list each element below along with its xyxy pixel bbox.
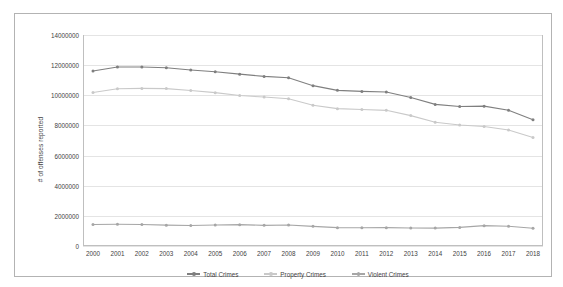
series-marker	[189, 68, 192, 71]
series-marker	[507, 225, 510, 228]
series-marker	[92, 70, 95, 73]
y-axis-tick-label: 4000000	[17, 182, 79, 189]
series-marker	[507, 129, 510, 132]
series-marker	[409, 114, 412, 117]
x-axis-tick-label: 2016	[477, 250, 491, 257]
series-marker	[140, 223, 143, 226]
series-lines	[83, 35, 543, 246]
series-marker	[263, 96, 266, 99]
series-marker	[458, 105, 461, 108]
series-marker	[165, 87, 168, 90]
series-marker	[532, 118, 535, 121]
legend-swatch-icon	[352, 273, 365, 274]
y-axis-tick-label: 6000000	[17, 152, 79, 159]
series-marker	[409, 226, 412, 229]
series-marker	[385, 226, 388, 229]
series-marker	[140, 65, 143, 68]
series-marker	[238, 94, 241, 97]
series-marker	[336, 226, 339, 229]
series-marker	[434, 121, 437, 124]
x-axis-tick-label: 2018	[526, 250, 540, 257]
y-axis-tick-label: 8000000	[17, 122, 79, 129]
series-marker	[189, 224, 192, 227]
chart-frame: # of offenses reported 02000000400000060…	[14, 13, 552, 277]
y-axis-tick-label: 0	[17, 243, 79, 250]
x-axis-tick-label: 2015	[453, 250, 467, 257]
x-axis-tick-label: 2001	[110, 250, 124, 257]
legend-label: Property Crimes	[280, 271, 326, 278]
legend-label: Violent Crimes	[368, 271, 409, 278]
x-axis-tick-labels: 2000200120022003200420052006200720082009…	[83, 250, 543, 262]
series-marker	[92, 223, 95, 226]
series-line	[93, 67, 533, 120]
series-marker	[360, 90, 363, 93]
legend-marker-icon	[269, 272, 273, 276]
series-marker	[165, 224, 168, 227]
series-marker	[263, 224, 266, 227]
x-axis-tick-label: 2002	[135, 250, 149, 257]
x-axis-tick-label: 2008	[282, 250, 296, 257]
series-marker	[336, 89, 339, 92]
legend-swatch-icon	[264, 273, 277, 274]
series-marker	[214, 224, 217, 227]
series-marker	[312, 225, 315, 228]
series-marker	[116, 87, 119, 90]
series-marker	[92, 91, 95, 94]
series-marker	[287, 224, 290, 227]
legend-item[interactable]: Total Crimes	[187, 271, 238, 278]
x-axis-tick-label: 2013	[404, 250, 418, 257]
series-marker	[507, 109, 510, 112]
series-line	[93, 88, 533, 137]
series-marker	[165, 66, 168, 69]
series-marker	[458, 124, 461, 127]
x-axis-tick-label: 2003	[159, 250, 173, 257]
legend-label: Total Crimes	[203, 271, 238, 278]
series-marker	[287, 76, 290, 79]
series-marker	[336, 107, 339, 110]
x-axis-tick-label: 2012	[379, 250, 393, 257]
series-marker	[312, 104, 315, 107]
series-marker	[360, 108, 363, 111]
series-marker	[409, 96, 412, 99]
series-marker	[483, 224, 486, 227]
legend-marker-icon	[357, 272, 361, 276]
series-marker	[434, 227, 437, 230]
y-axis-tick-label: 12000000	[17, 62, 79, 69]
series-marker	[483, 105, 486, 108]
x-axis-tick-label: 2005	[208, 250, 222, 257]
x-axis-tick-label: 2006	[233, 250, 247, 257]
series-marker	[189, 89, 192, 92]
y-axis-tick-labels: 0200000040000006000000800000010000000120…	[15, 35, 79, 246]
chart-legend: Total CrimesProperty CrimesViolent Crime…	[29, 267, 563, 281]
x-axis-tick-label: 2010	[330, 250, 344, 257]
y-axis-tick-label: 2000000	[17, 212, 79, 219]
y-axis-tick-label: 14000000	[17, 32, 79, 39]
gridline	[83, 246, 543, 247]
x-axis-tick-label: 2004	[184, 250, 198, 257]
x-axis-tick-label: 2017	[502, 250, 516, 257]
series-marker	[287, 97, 290, 100]
x-axis-tick-label: 2000	[86, 250, 100, 257]
series-marker	[458, 226, 461, 229]
legend-swatch-icon	[187, 273, 200, 274]
series-marker	[140, 87, 143, 90]
series-marker	[116, 66, 119, 69]
series-marker	[360, 226, 363, 229]
x-axis-tick-label: 2011	[355, 250, 369, 257]
legend-item[interactable]: Violent Crimes	[352, 271, 409, 278]
legend-marker-icon	[192, 272, 196, 276]
series-marker	[116, 223, 119, 226]
legend-item[interactable]: Property Crimes	[264, 271, 326, 278]
series-marker	[238, 223, 241, 226]
series-marker	[214, 70, 217, 73]
x-axis-tick-label: 2007	[257, 250, 271, 257]
series-marker	[385, 90, 388, 93]
series-marker	[238, 73, 241, 76]
series-marker	[434, 103, 437, 106]
series-marker	[532, 136, 535, 139]
series-marker	[483, 125, 486, 128]
y-axis-tick-label: 10000000	[17, 92, 79, 99]
x-axis-tick-label: 2009	[306, 250, 320, 257]
series-marker	[312, 84, 315, 87]
series-marker	[214, 91, 217, 94]
